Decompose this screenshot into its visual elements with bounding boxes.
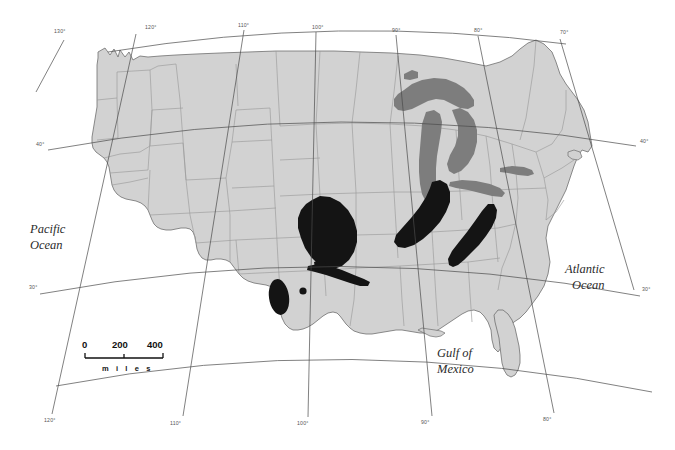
gulf-of-mexico-label-line1: Gulf of (437, 346, 474, 360)
atlantic-ocean-label-line2: Ocean (572, 278, 605, 292)
scale-unit-label: m i l e s (102, 364, 153, 373)
lat-label-left-40: 40° (36, 141, 44, 147)
lon-label-top-130: 130° (54, 28, 66, 34)
scale-tick-200: 200 (112, 339, 128, 350)
atlantic-ocean-label-line1: Atlantic (564, 262, 605, 276)
lon-label-top-120: 120° (145, 24, 157, 30)
lon-label-bottom-80: 80° (543, 416, 551, 422)
lat-label-left-30: 30° (29, 284, 37, 290)
scale-tick-0: 0 (82, 339, 87, 350)
lon-label-top-90: 90° (392, 27, 400, 33)
lon-label-top-80: 80° (474, 27, 482, 33)
lon-label-bottom-90: 90° (421, 419, 429, 425)
range-southwest-dot (299, 287, 306, 294)
lon-label-bottom-120: 120° (44, 417, 56, 423)
lon-label-bottom-110: 110° (170, 420, 181, 426)
lon-label-top-100: 100° (312, 24, 324, 30)
scale-tick-400: 400 (147, 339, 163, 350)
lon-label-bottom-100: 100° (297, 420, 309, 426)
lat-label-right-40: 40° (640, 138, 648, 144)
map-canvas: 130° 120° 110° 100° 90° 80° 70° 120° 110… (0, 0, 675, 450)
lat-label-right-30: 30° (642, 286, 650, 292)
gulf-of-mexico-label-line2: Mexico (436, 362, 474, 376)
pacific-ocean-label-line1: Pacific (29, 222, 66, 236)
pacific-ocean-label-line2: Ocean (30, 238, 63, 252)
lon-label-top-110: 110° (238, 22, 249, 28)
map-figure: 130° 120° 110° 100° 90° 80° 70° 120° 110… (0, 0, 675, 450)
lon-label-top-70: 70° (560, 29, 568, 35)
